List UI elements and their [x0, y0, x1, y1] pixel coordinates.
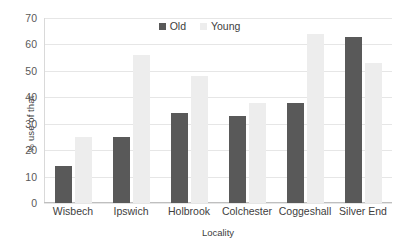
bar-old[interactable]	[229, 116, 246, 203]
bar-old[interactable]	[345, 37, 362, 204]
bar-young[interactable]	[365, 63, 382, 203]
bar-old[interactable]	[171, 113, 188, 203]
bar-chart: % use of that 706050403020100 WisbechIps…	[0, 0, 399, 247]
y-axis-tick-label: 60	[25, 39, 44, 50]
bar-group	[334, 18, 392, 203]
y-axis-tick-label: 10	[25, 171, 44, 182]
x-axis-tick-label: Holbrook	[160, 205, 218, 217]
y-axis-tick-label: 40	[25, 92, 44, 103]
bar-young[interactable]	[307, 34, 324, 203]
y-axis-tick-label: 20	[25, 145, 44, 156]
y-axis-tick-label: 70	[25, 13, 44, 24]
x-axis-tick-label: Wisbech	[44, 205, 102, 217]
bar-young[interactable]	[133, 55, 150, 203]
bar-young[interactable]	[191, 76, 208, 203]
bar-group	[160, 18, 218, 203]
x-axis-tick-labels: WisbechIpswichHolbrookColchesterCoggesha…	[44, 205, 392, 217]
bar-group	[44, 18, 102, 203]
y-axis-tick-label: 30	[25, 118, 44, 129]
x-axis-title: Locality	[44, 227, 392, 238]
gridline	[44, 203, 392, 204]
y-axis-tick-label: 50	[25, 66, 44, 77]
bar-group	[218, 18, 276, 203]
bar-groups	[44, 18, 392, 203]
x-axis-tick-label: Colchester	[218, 205, 276, 217]
bar-old[interactable]	[113, 137, 130, 203]
y-axis-tick-label: 0	[31, 198, 44, 209]
bar-old[interactable]	[55, 166, 72, 203]
x-axis-tick-label: Coggeshall	[276, 205, 334, 217]
bar-young[interactable]	[249, 103, 266, 203]
bar-old[interactable]	[287, 103, 304, 203]
x-axis-tick-label: Silver End	[334, 205, 392, 217]
bar-group	[276, 18, 334, 203]
bar-group	[102, 18, 160, 203]
plot-area: 706050403020100	[44, 18, 392, 203]
x-axis-tick-label: Ipswich	[102, 205, 160, 217]
bar-young[interactable]	[75, 137, 92, 203]
